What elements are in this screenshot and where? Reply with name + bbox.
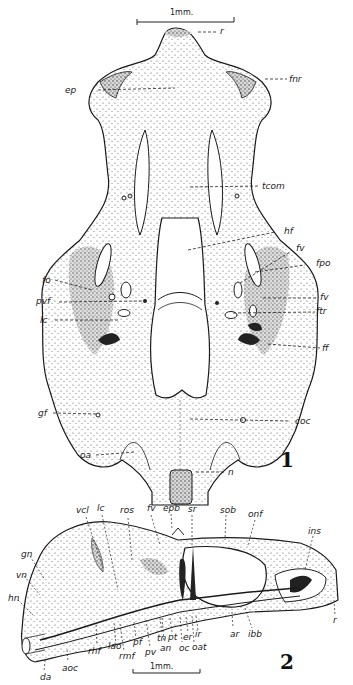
label-pv: pv	[145, 647, 156, 657]
label-r-fig2: r	[333, 615, 337, 625]
fig1-scale-bar	[137, 17, 234, 25]
figure-number-1: 1	[280, 448, 294, 472]
label-ep: ep	[65, 85, 76, 95]
label-an: an	[160, 643, 171, 653]
label-fv-lower: fv	[320, 292, 329, 302]
label-ff: ff	[322, 343, 329, 353]
label-sob: sob	[220, 505, 236, 515]
label-pf: pf	[133, 637, 142, 647]
label-hf: hf	[284, 226, 293, 236]
label-vn: vn	[16, 570, 27, 580]
label-da: da	[40, 672, 51, 682]
label-oa: oa	[80, 450, 91, 460]
label-gn: gn	[21, 549, 32, 559]
label-vcl: vcl	[76, 505, 89, 515]
label-oat: oat	[192, 642, 207, 652]
label-pvf: pvf	[36, 296, 50, 306]
label-lc-fig2: lc	[97, 503, 104, 513]
label-ar: ar	[230, 629, 239, 639]
label-ins: ins	[308, 526, 321, 536]
fig2-skull	[22, 522, 338, 662]
label-lc: lc	[40, 315, 47, 325]
label-coc: coc	[295, 416, 310, 426]
figure-number-2: 2	[280, 650, 294, 674]
label-epb: epb	[163, 503, 180, 513]
label-rmf: rmf	[119, 651, 135, 661]
label-hn: hn	[8, 593, 19, 603]
label-sr: sr	[188, 504, 196, 514]
label-aoc: aoc	[62, 663, 78, 673]
label-oc: oc	[179, 643, 189, 653]
label-fo: fo	[42, 275, 51, 285]
label-fpo: fpo	[316, 258, 330, 268]
label-rhf: rhf	[88, 646, 101, 656]
label-fv-upper: fv	[296, 243, 305, 253]
fig1-scale-label: 1mm.	[170, 8, 193, 17]
label-n: n	[228, 467, 234, 477]
fig2-scale-label: 1mm.	[150, 662, 173, 671]
anatomical-plate: 1mm. r fnr ep tcom hf fv fpo fo pvf fv f…	[0, 0, 353, 685]
label-fnr: fnr	[289, 74, 302, 84]
label-tn: tn	[157, 633, 166, 643]
label-onf: onf	[248, 509, 262, 519]
label-ftr: ftr	[316, 306, 326, 316]
label-lao: lao	[108, 641, 122, 651]
label-r: r	[220, 26, 224, 36]
fig1-skull	[42, 28, 318, 505]
label-pt: pt	[168, 632, 177, 642]
label-er: er	[183, 632, 192, 642]
label-gf: gf	[38, 408, 47, 418]
label-ir: ir	[195, 629, 201, 639]
label-fv-fig2: fv	[147, 503, 156, 513]
label-tcom: tcom	[262, 181, 285, 191]
label-ibb: ibb	[248, 629, 262, 639]
skull-drawings	[0, 0, 353, 685]
label-ros: ros	[120, 505, 134, 515]
